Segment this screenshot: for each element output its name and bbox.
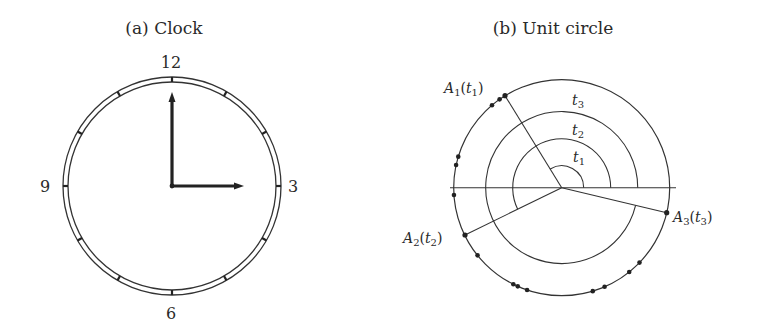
circle-dot [627,270,632,275]
figure: (a) Clock 12 3 6 9 (b) Unit circle [0,0,760,330]
circle-dot [497,97,502,102]
circle-dot [602,285,607,290]
minute-hand [169,92,176,186]
point-a1 [502,93,507,98]
numeral-12: 12 [161,53,181,72]
clock-tick [224,276,227,280]
circle-dot [456,154,461,159]
label-a3: A3(t3) [671,209,712,227]
clock-tick [262,132,266,135]
numeral-3: 3 [288,177,298,196]
label-t2: t2 [572,122,584,140]
label-a1: A1(t1) [442,80,483,98]
circle-dot [454,163,459,168]
label-a2: A2(t2) [401,230,442,248]
circle-dot [637,260,642,265]
circle-dot [475,253,480,258]
clock-title: (a) Clock [125,18,203,38]
clock-tick [262,238,266,241]
numeral-6: 6 [166,304,176,323]
clock-tick [118,92,121,96]
clock-tick [224,92,227,96]
point-a3 [664,210,669,215]
label-t3: t3 [572,92,584,110]
circle-dot [515,284,520,289]
circle-dot [590,289,595,294]
numeral-9: 9 [40,177,50,196]
clock-center-pivot [170,184,175,189]
arc-t2 [513,139,611,210]
clock-tick [118,276,121,280]
point-a2 [462,232,467,237]
label-t1: t1 [573,149,585,167]
unit-circle-panel: (b) Unit circle t1 t2 t3 A1(t1) A2(t2) A… [401,18,712,296]
radius-a3 [562,188,667,213]
circle-dot [525,288,530,293]
clock-tick [78,132,82,135]
radius-a1 [505,96,562,188]
circle-dot [452,193,457,198]
circle-dot [511,282,516,287]
circle-dot [490,103,495,108]
unit-circle-title: (b) Unit circle [493,18,614,38]
hour-hand [172,183,244,190]
clock-tick [78,238,82,241]
clock-panel: (a) Clock 12 3 6 9 [40,18,298,323]
